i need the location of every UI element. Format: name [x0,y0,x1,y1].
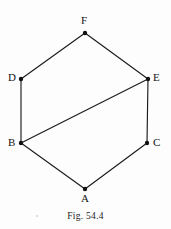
vertex-point-f [83,31,87,35]
vertex-label-a: A [81,193,89,204]
vertex-label-b: B [8,137,16,148]
vertex-label-d: D [8,72,16,83]
vertex-point-b [19,141,23,145]
vertex-point-d [19,77,23,81]
edge-F-E [85,33,148,79]
edge-A-B [21,143,85,189]
vertex-point-c [145,141,149,145]
edges-group [21,33,148,189]
edge-E-C [147,79,148,143]
vertex-label-f: F [81,15,87,26]
vertex-point-e [146,77,150,81]
vertex-label-e: E [153,72,160,83]
figure-container: FDEBCA Fig. 54.4 [0,0,171,229]
edge-D-F [21,33,85,79]
vertex-point-a [83,187,87,191]
figure-caption: Fig. 54.4 [0,211,171,222]
vertex-label-c: C [153,137,161,148]
diagonal-B-E [21,79,148,143]
edge-C-A [85,143,147,189]
